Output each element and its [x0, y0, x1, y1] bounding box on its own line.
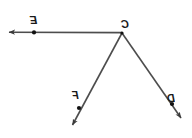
geometry-figure: [0, 0, 192, 138]
ray-CF: [73, 33, 123, 125]
vertex-label-c: C: [121, 19, 129, 30]
point-label-f: F: [72, 90, 79, 101]
point-C: [120, 31, 123, 34]
point-label-e: E: [30, 15, 37, 26]
point-F: [77, 106, 81, 110]
point-E: [32, 30, 36, 34]
diagram-canvas: C E F D: [0, 0, 192, 138]
point-label-d: D: [167, 93, 175, 104]
